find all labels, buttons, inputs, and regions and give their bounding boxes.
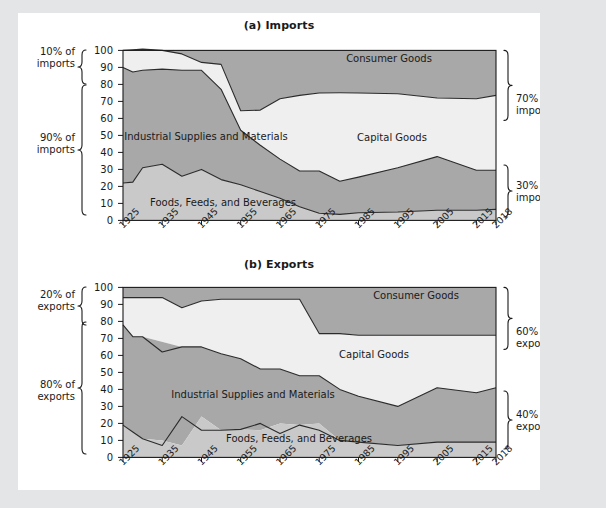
imports-right-bracket-0-line2: imports (516, 105, 540, 116)
exports-svg: 20% of exports 80% of exports 100 90 80 … (18, 252, 540, 490)
figure-panel: (a) Imports 10% of imports 90% of import… (18, 13, 540, 490)
imports-ytick-80: 80 (100, 79, 113, 90)
imports-ytick-50: 50 (100, 130, 113, 141)
imports-ytick-70: 70 (100, 96, 113, 107)
imports-left-bracket-1-line2: imports (37, 144, 75, 155)
figure-imports-plot: 10% of imports 90% of imports 100 90 80 … (18, 13, 540, 251)
imports-left-bracket-0-line2: imports (37, 58, 75, 69)
imports-label-industrial: Industrial Supplies and Materials (124, 131, 287, 142)
exports-right-bracket-0-line1: 60% of (516, 326, 540, 337)
exports-ytick-0: 0 (107, 452, 113, 463)
imports-right-bracket-1-line2: imports (516, 192, 540, 203)
imports-ytick-0: 0 (107, 215, 113, 226)
exports-areas (123, 287, 496, 457)
exports-label-capital: Capital Goods (339, 349, 409, 360)
exports-left-bracket-0-line1: 20% of (40, 289, 76, 300)
exports-ytick-40: 40 (100, 384, 113, 395)
imports-right-bracket-0-line1: 70% of (516, 93, 540, 104)
exports-ytick-30: 30 (100, 401, 113, 412)
exports-ytick-70: 70 (100, 333, 113, 344)
exports-label-industrial: Industrial Supplies and Materials (171, 389, 334, 400)
imports-ytick-10: 10 (100, 198, 113, 209)
imports-ytick-40: 40 (100, 147, 113, 158)
exports-right-brackets: 60% of exports 40% of exports (504, 287, 540, 449)
exports-left-bracket-0-line2: exports (37, 301, 75, 312)
imports-left-bracket-0-line1: 10% of (40, 46, 76, 57)
exports-left-bracket-1-line1: 80% of (40, 379, 76, 390)
imports-right-bracket-1-line1: 30% of (516, 180, 540, 191)
exports-ytick-80: 80 (100, 316, 113, 327)
figure-exports: (b) Exports 20% of exports 80% of export… (18, 252, 540, 490)
exports-ytick-10: 10 (100, 435, 113, 446)
page-background: (a) Imports 10% of imports 90% of import… (0, 0, 606, 508)
figure-exports-plot: 20% of exports 80% of exports 100 90 80 … (18, 252, 540, 490)
imports-ytick-100: 100 (94, 45, 113, 56)
exports-right-bracket-1-line1: 40% of (516, 409, 540, 420)
imports-ytick-60: 60 (100, 113, 113, 124)
exports-ytick-50: 50 (100, 367, 113, 378)
imports-label-consumer: Consumer Goods (346, 53, 432, 64)
exports-y-axis: 100 90 80 70 60 50 40 30 20 10 0 (94, 282, 123, 463)
imports-y-axis: 100 90 80 70 60 50 40 30 20 10 0 (94, 45, 123, 226)
imports-ytick-30: 30 (100, 164, 113, 175)
figure-imports: (a) Imports 10% of imports 90% of import… (18, 13, 540, 251)
exports-right-bracket-1-line2: exports (516, 421, 540, 432)
exports-ytick-60: 60 (100, 350, 113, 361)
exports-ytick-100: 100 (94, 282, 113, 293)
exports-label-consumer: Consumer Goods (373, 290, 459, 301)
imports-ytick-20: 20 (100, 181, 113, 192)
exports-left-brackets: 20% of exports 80% of exports (37, 287, 86, 454)
exports-ytick-20: 20 (100, 418, 113, 429)
exports-label-foods: Foods, Feeds, and Beverages (226, 433, 372, 444)
exports-right-bracket-0-line2: exports (516, 338, 540, 349)
imports-ytick-90: 90 (100, 62, 113, 73)
imports-label-capital: Capital Goods (357, 132, 427, 143)
exports-ytick-90: 90 (100, 299, 113, 310)
imports-right-brackets: 70% of imports 30% of imports (504, 50, 540, 217)
imports-svg: 10% of imports 90% of imports 100 90 80 … (18, 13, 540, 251)
imports-left-bracket-1-line1: 90% of (40, 132, 76, 143)
imports-left-brackets: 10% of imports 90% of imports (37, 46, 86, 215)
exports-left-bracket-1-line2: exports (37, 391, 75, 402)
